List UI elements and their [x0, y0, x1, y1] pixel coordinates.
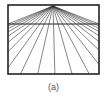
perspective-ray	[8, 6, 53, 29]
perspective-rays	[8, 6, 99, 74]
perspective-ray	[53, 6, 99, 50]
perspective-ray	[8, 6, 53, 52]
perspective-ray	[8, 6, 53, 32]
perspective-ray	[21, 6, 53, 74]
perspective-ray	[53, 6, 55, 74]
figure-caption: (a)	[0, 82, 107, 93]
perspective-ray	[53, 6, 99, 28]
perspective-ray	[8, 6, 53, 26]
